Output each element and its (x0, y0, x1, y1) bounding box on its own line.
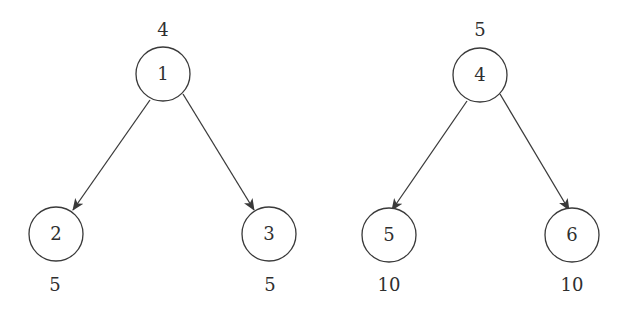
node-5-weight: 10 (378, 274, 401, 295)
edge-1-to-3 (183, 94, 254, 210)
node-5: 5 10 (362, 208, 416, 295)
tree-right: 4 5 5 10 6 10 (362, 19, 599, 295)
node-3: 3 5 (242, 207, 296, 295)
tree-diagram: 1 4 2 5 3 5 4 5 5 10 6 1 (0, 0, 626, 312)
edge-4-to-6 (500, 94, 569, 210)
edge-1-to-2 (73, 100, 150, 210)
node-6-weight: 10 (561, 274, 584, 295)
node-1-label: 1 (157, 63, 168, 84)
tree-left: 1 4 2 5 3 5 (29, 19, 296, 295)
node-4: 4 5 (453, 19, 507, 102)
node-3-label: 3 (263, 223, 274, 244)
node-5-label: 5 (383, 224, 394, 245)
node-3-weight: 5 (264, 274, 275, 295)
node-6: 6 10 (545, 208, 599, 295)
edge-4-to-5 (392, 101, 467, 210)
node-2-weight: 5 (49, 274, 60, 295)
node-1-weight: 4 (157, 19, 168, 40)
node-1: 1 4 (136, 19, 190, 101)
node-2: 2 5 (29, 207, 83, 295)
node-6-label: 6 (566, 224, 577, 245)
node-4-weight: 5 (474, 19, 485, 40)
node-2-label: 2 (50, 223, 61, 244)
node-4-label: 4 (474, 64, 485, 85)
